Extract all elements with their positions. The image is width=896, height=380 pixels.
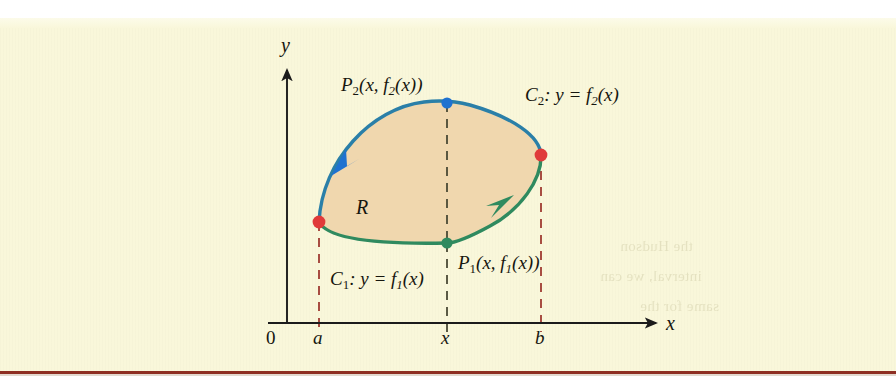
curve-label-c2-eq-tail: (x) xyxy=(598,84,619,105)
x-axis-label: x xyxy=(666,312,675,335)
point-label-P2-tail: (x, f xyxy=(359,74,389,95)
curve-label-c1-equation: : y = f xyxy=(349,268,396,289)
curve-label-c1-prefix: C xyxy=(330,268,343,289)
y-axis-label: y xyxy=(281,34,290,57)
endpoint-dot-a xyxy=(313,216,326,229)
curve-label-c2: C2: y = f2(x) xyxy=(525,84,619,109)
point-label-P2: P2(x, f2(x)) xyxy=(341,74,422,99)
figure-root: the Hudson interval, we can same for the xyxy=(0,0,896,380)
point-label-P2-prefix: P xyxy=(341,74,353,95)
diagram-canvas xyxy=(0,0,896,380)
tick-label-b: b xyxy=(535,327,545,349)
point-label-P2-tail-end: (x)) xyxy=(395,74,422,95)
point-dot-P1 xyxy=(441,237,452,248)
point-label-P1-prefix: P xyxy=(458,252,470,273)
curve-label-c1: C1: y = f1(x) xyxy=(330,268,424,293)
point-label-P1-tail-end: (x)) xyxy=(512,252,539,273)
point-dot-P2 xyxy=(441,97,452,108)
curve-label-c2-prefix: C xyxy=(525,84,538,105)
region-label: R xyxy=(356,196,368,219)
tick-label-a: a xyxy=(313,327,323,349)
curve-label-c2-equation: : y = f xyxy=(544,84,591,105)
point-label-P1: P1(x, f1(x)) xyxy=(458,252,539,277)
page-bottom-rule-shadow xyxy=(0,374,896,376)
tick-label-x: x xyxy=(441,327,449,349)
region-shape xyxy=(319,101,541,243)
origin-label: 0 xyxy=(266,327,276,349)
point-label-P1-tail: (x, f xyxy=(476,252,506,273)
curve-label-c1-eq-tail: (x) xyxy=(403,268,424,289)
endpoint-dot-b xyxy=(535,149,548,162)
